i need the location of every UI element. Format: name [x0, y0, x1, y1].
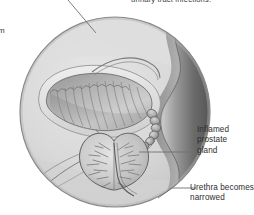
circular-inset: [18, 17, 214, 212]
callout-prostate-line-2: prostate: [197, 135, 229, 145]
callout-prostate-line-1: Inflamed: [197, 125, 229, 135]
callout-urethra-line-2: narrowed: [190, 193, 254, 203]
figure-root: urinary tract infections. m Inflamed pro…: [0, 0, 254, 215]
callout-inflamed-prostate-gland: Inflamed prostate gland: [197, 125, 229, 156]
callout-urethra-line-1: Urethra becomes: [190, 183, 254, 193]
callout-urethra-becomes-narrowed: Urethra becomes narrowed: [190, 183, 254, 204]
callout-prostate-line-3: gland: [197, 146, 229, 156]
clipped-text-left: m: [0, 26, 5, 35]
clipped-text-top: urinary tract infections.: [131, 0, 211, 4]
